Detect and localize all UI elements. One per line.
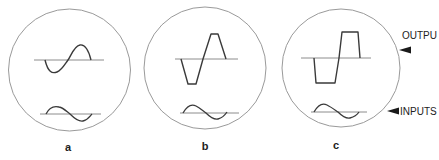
input-waveform-c <box>314 104 359 118</box>
output-arrow-icon <box>399 47 411 54</box>
panel-label-a: a <box>65 141 72 153</box>
output-label: OUTPU <box>402 30 437 41</box>
waveform-diagram: a b c OUTPU INPUTS <box>0 0 439 160</box>
panel-a: a <box>9 9 131 153</box>
scope-screen-c <box>282 9 400 127</box>
panel-label-c: c <box>333 139 339 151</box>
panel-c: c <box>282 9 400 151</box>
output-waveform-a <box>45 45 91 73</box>
input-arrow-icon <box>387 108 399 115</box>
input-label: INPUTS <box>400 106 437 117</box>
scope-screen-a <box>9 9 131 131</box>
input-waveform-b <box>183 105 227 119</box>
scope-screen-b <box>144 7 266 129</box>
panel-b: b <box>144 7 266 152</box>
panel-label-b: b <box>202 140 209 152</box>
